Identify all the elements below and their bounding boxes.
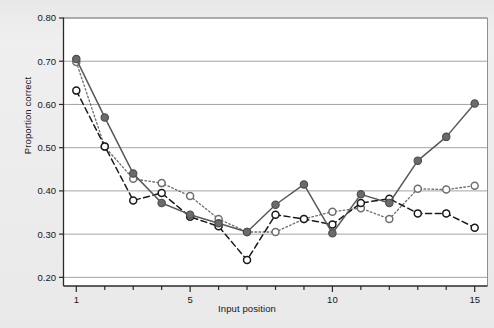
- data-point: [386, 199, 393, 206]
- data-point: [357, 191, 364, 198]
- data-point: [471, 100, 478, 107]
- data-point: [73, 55, 80, 62]
- data-point: [471, 224, 478, 231]
- data-point: [471, 182, 478, 189]
- data-point: [329, 230, 336, 237]
- data-point: [300, 181, 307, 188]
- data-point: [300, 216, 307, 223]
- data-point: [158, 190, 165, 197]
- y-tick-label: 0.70: [38, 56, 57, 67]
- y-tick-label: 0.80: [38, 12, 57, 23]
- data-point: [186, 211, 193, 218]
- data-point: [243, 228, 250, 235]
- y-tick-label: 0.60: [38, 99, 57, 110]
- data-point: [414, 210, 421, 217]
- data-point: [158, 199, 165, 206]
- data-point: [130, 197, 137, 204]
- data-point: [357, 200, 364, 207]
- data-point: [272, 228, 279, 235]
- data-point: [443, 133, 450, 140]
- x-axis-label: Input position: [0, 303, 494, 314]
- data-point: [130, 170, 137, 177]
- data-point: [187, 193, 194, 200]
- data-point: [73, 87, 80, 94]
- data-point: [414, 157, 421, 164]
- data-point: [215, 220, 222, 227]
- chart-figure: 0.200.300.400.500.600.700.80151015 Propo…: [0, 0, 494, 328]
- y-axis-ticks: 0.200.300.400.500.600.700.80: [38, 12, 64, 282]
- y-tick-label: 0.50: [38, 142, 57, 153]
- data-point: [101, 114, 108, 121]
- data-point: [272, 211, 279, 218]
- y-tick-label: 0.40: [38, 185, 57, 196]
- data-point: [272, 201, 279, 208]
- y-tick-label: 0.20: [38, 272, 57, 283]
- data-point: [443, 186, 450, 193]
- data-point: [386, 216, 393, 223]
- data-point: [443, 210, 450, 217]
- data-point: [101, 143, 108, 150]
- y-tick-label: 0.30: [38, 229, 57, 240]
- data-point: [329, 221, 336, 228]
- line-chart: 0.200.300.400.500.600.700.80151015: [0, 0, 494, 328]
- data-point: [329, 208, 336, 215]
- data-point: [158, 180, 165, 187]
- plot-area-background: [64, 18, 488, 286]
- data-point: [244, 257, 251, 264]
- data-point: [414, 185, 421, 192]
- y-axis-label: Proportion correct: [22, 56, 33, 176]
